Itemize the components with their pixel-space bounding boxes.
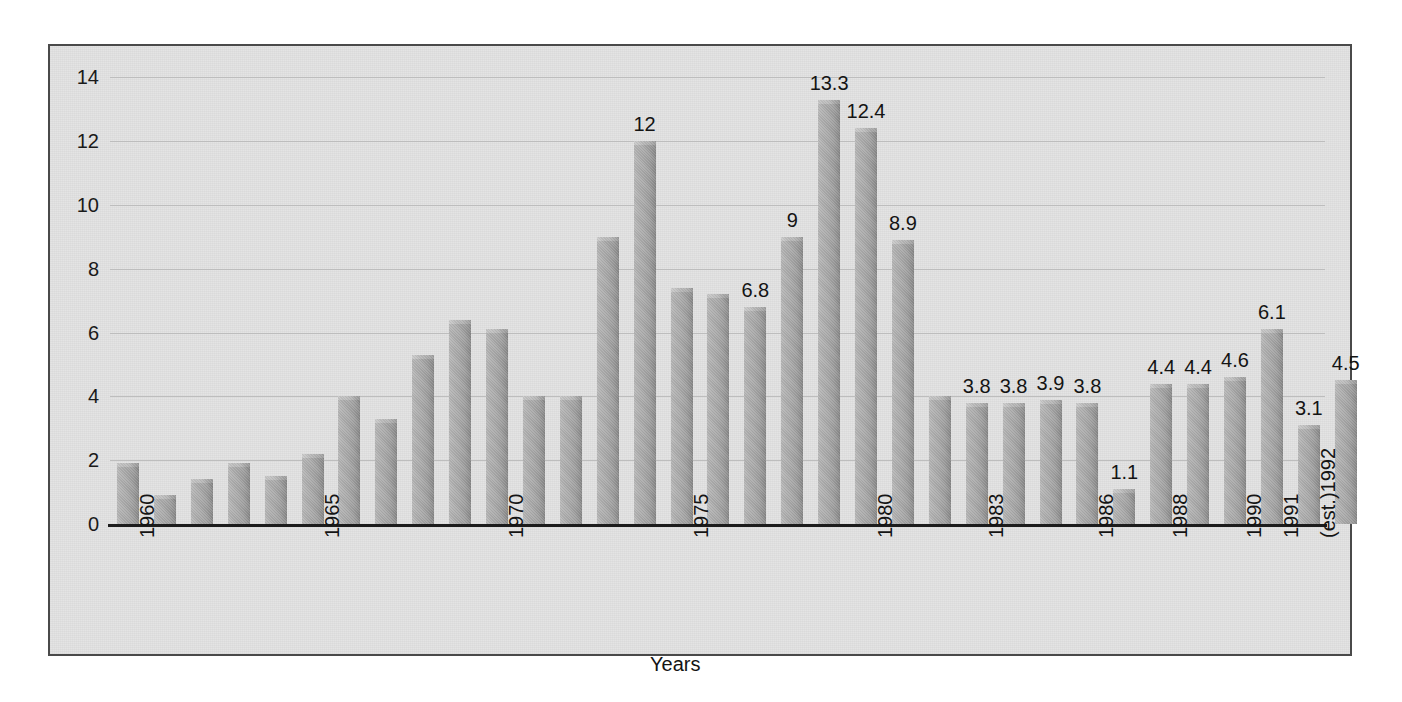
gridline: [110, 77, 1325, 78]
x-tick-label: 1990: [1244, 494, 1264, 539]
bar-value-label: 8.9: [873, 213, 933, 233]
bar: [634, 141, 656, 524]
x-axis-baseline: [108, 524, 1327, 527]
bar-value-label: 6.8: [725, 280, 785, 300]
gridline: [110, 205, 1325, 206]
x-tick-label: 1986: [1096, 494, 1116, 539]
bar: [929, 396, 951, 524]
bar: [560, 396, 582, 524]
bar: [265, 476, 287, 524]
x-tick-label: 1975: [691, 494, 711, 539]
y-tick-label: 0: [59, 514, 99, 534]
x-tick-label: (est.)1992: [1318, 448, 1338, 538]
bar: [597, 237, 619, 524]
bar: [449, 320, 471, 524]
plot-area: 02468101214 126.8913.312.48.93.83.83.93.…: [50, 46, 1354, 658]
bar-value-label: 3.8: [1057, 376, 1117, 396]
gridline: [110, 141, 1325, 142]
x-tick-label: 1980: [875, 494, 895, 539]
x-tick-label: 1983: [986, 494, 1006, 539]
bar-value-label: 4.5: [1316, 353, 1376, 373]
y-tick-label: 6: [59, 323, 99, 343]
bar: [375, 419, 397, 524]
y-tick-label: 8: [59, 259, 99, 279]
bar-value-label: 3.1: [1279, 398, 1339, 418]
x-tick-label: 1988: [1170, 494, 1190, 539]
x-tick-label: 1991: [1281, 494, 1301, 539]
bar: [1040, 400, 1062, 524]
y-tick-label: 14: [59, 67, 99, 87]
bar-value-label: 6.1: [1242, 302, 1302, 322]
bar: [671, 288, 693, 524]
x-tick-label: 1970: [506, 494, 526, 539]
x-tick-label: 1960: [137, 494, 157, 539]
bar-value-label: 4.6: [1205, 350, 1265, 370]
bar: [892, 240, 914, 524]
bar-value-label: 12.4: [836, 101, 896, 121]
bar-value-label: 12: [615, 114, 675, 134]
x-tick-label: 1965: [322, 494, 342, 539]
bar: [412, 355, 434, 524]
y-tick-label: 4: [59, 386, 99, 406]
bar: [191, 479, 213, 524]
chart-page: 02468101214 126.8913.312.48.93.83.83.93.…: [0, 0, 1402, 702]
bar: [855, 128, 877, 524]
y-tick-label: 10: [59, 195, 99, 215]
x-axis-title: Years: [650, 654, 700, 674]
bar: [228, 463, 250, 524]
chart-frame: 02468101214 126.8913.312.48.93.83.83.93.…: [48, 44, 1352, 656]
bar: [818, 100, 840, 524]
y-tick-label: 2: [59, 450, 99, 470]
gridline: [110, 269, 1325, 270]
bar-value-label: 13.3: [799, 73, 859, 93]
bar: [707, 294, 729, 524]
bar-value-label: 9: [762, 210, 822, 230]
y-tick-label: 12: [59, 131, 99, 151]
bar: [744, 307, 766, 524]
bar-value-label: 1.1: [1094, 462, 1154, 482]
